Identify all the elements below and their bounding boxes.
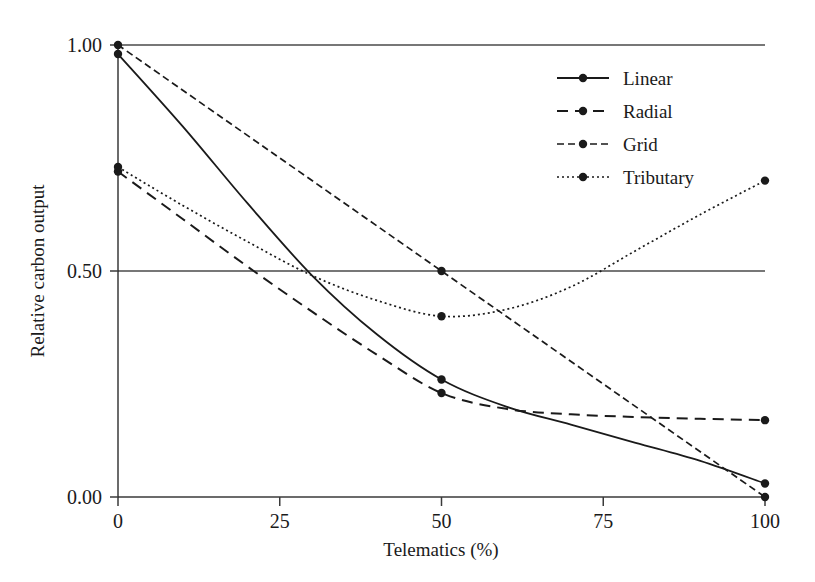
legend-marker-radial xyxy=(579,107,587,115)
data-point-tributary xyxy=(437,312,445,320)
legend-marker-tributary xyxy=(579,173,587,181)
legend-marker-linear xyxy=(579,74,587,82)
chart-background xyxy=(0,0,815,582)
data-point-radial xyxy=(437,389,445,397)
y-axis-title: Relative carbon output xyxy=(27,184,48,358)
x-tick-label: 100 xyxy=(750,510,780,532)
data-point-grid xyxy=(437,267,445,275)
x-tick-label: 75 xyxy=(593,510,613,532)
legend-label-linear: Linear xyxy=(623,68,673,89)
data-point-grid xyxy=(761,493,769,501)
data-point-tributary xyxy=(761,176,769,184)
y-tick-label: 0.00 xyxy=(67,486,102,508)
x-tick-label: 50 xyxy=(432,510,452,532)
data-point-radial xyxy=(761,416,769,424)
data-point-linear xyxy=(114,50,122,58)
data-point-tributary xyxy=(114,163,122,171)
legend-label-grid: Grid xyxy=(623,134,658,155)
data-point-linear xyxy=(761,479,769,487)
y-tick-label: 1.00 xyxy=(67,34,102,56)
x-axis-title: Telematics (%) xyxy=(383,539,498,561)
data-point-linear xyxy=(437,375,445,383)
data-point-grid xyxy=(114,41,122,49)
chart-container: 0.000.501.00 0255075100 LinearRadialGrid… xyxy=(0,0,815,582)
legend-marker-grid xyxy=(579,140,587,148)
legend-label-tributary: Tributary xyxy=(623,167,695,188)
carbon-output-line-chart: 0.000.501.00 0255075100 LinearRadialGrid… xyxy=(0,0,815,582)
x-tick-label: 25 xyxy=(270,510,290,532)
x-tick-label: 0 xyxy=(113,510,123,532)
y-tick-label: 0.50 xyxy=(67,260,102,282)
legend-label-radial: Radial xyxy=(623,101,673,122)
